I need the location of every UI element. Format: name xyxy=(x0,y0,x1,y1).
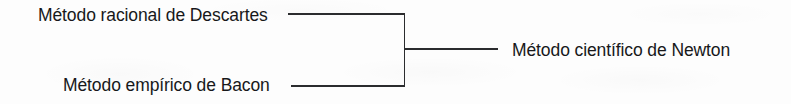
output-node-newton: Método científico de Newton xyxy=(512,42,730,60)
connector-output-stem xyxy=(404,48,498,50)
input-node-bacon: Método empírico de Bacon xyxy=(63,77,270,95)
connector-top-arm xyxy=(288,13,405,15)
connector-bottom-arm xyxy=(291,85,405,87)
input-node-descartes: Método racional de Descartes xyxy=(38,7,268,25)
method-convergence-diagram: Método racional de Descartes Método empí… xyxy=(0,0,791,104)
